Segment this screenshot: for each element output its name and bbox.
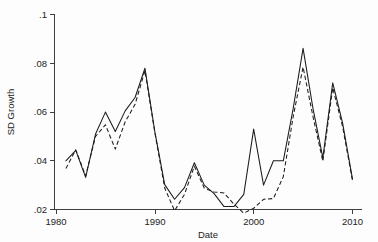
y-tick-label-0.04: .04	[34, 155, 47, 166]
y-tick-label-0.02: .02	[34, 204, 47, 215]
x-axis-title: Date	[198, 229, 218, 240]
x-tick-label-1980: 1980	[45, 216, 66, 227]
x-tick-label-2010: 2010	[342, 216, 363, 227]
y-tick-label-0.06: .06	[34, 106, 47, 117]
chart-figure: .02 .04 .06 .08 .1 1980 1990 2000 2010 D…	[0, 0, 378, 242]
y-axis-title: SD Growth	[5, 89, 16, 135]
x-tick-label-2000: 2000	[243, 216, 264, 227]
y-tick-marks	[50, 15, 55, 210]
y-tick-label-0.08: .08	[34, 58, 47, 69]
x-tick-marks	[56, 210, 353, 215]
line-chart: .02 .04 .06 .08 .1 1980 1990 2000 2010 D…	[0, 0, 378, 242]
series-solid-line	[66, 48, 353, 206]
x-tick-label-1990: 1990	[144, 216, 165, 227]
y-tick-label-0.1: .1	[39, 9, 47, 20]
